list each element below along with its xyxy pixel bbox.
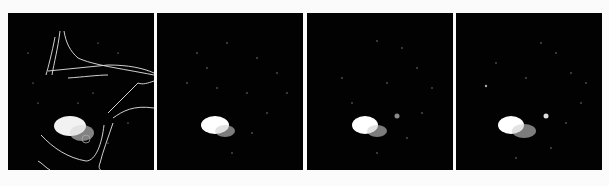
contour-overlay <box>38 31 154 170</box>
bright-blob <box>485 85 549 138</box>
bright-blob <box>54 116 94 143</box>
speckles <box>341 40 432 153</box>
bright-blob <box>201 116 235 137</box>
speckles <box>186 42 287 153</box>
bright-blob <box>352 114 400 138</box>
image-panel-3 <box>307 13 453 170</box>
scan-image-2 <box>157 13 303 170</box>
scan-image-1 <box>8 13 154 170</box>
scan-image-4 <box>456 13 602 170</box>
image-panel-1 <box>8 13 154 170</box>
scan-image-3 <box>307 13 453 170</box>
image-panel-2 <box>157 13 303 170</box>
image-panel-4 <box>456 13 602 170</box>
speckles <box>495 42 586 158</box>
